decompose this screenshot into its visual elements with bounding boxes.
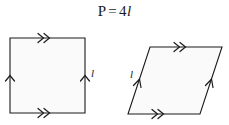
square-side-label: l xyxy=(91,67,94,79)
square-shape: l xyxy=(6,34,95,118)
parallelogram-side-label: l xyxy=(130,68,133,80)
figure-canvas: P=4l l xyxy=(0,0,229,125)
parallelogram-outline xyxy=(128,47,222,114)
square-outline xyxy=(10,38,85,113)
shapes-diagram: l l xyxy=(0,0,229,125)
parallelogram-shape: l xyxy=(128,43,222,119)
